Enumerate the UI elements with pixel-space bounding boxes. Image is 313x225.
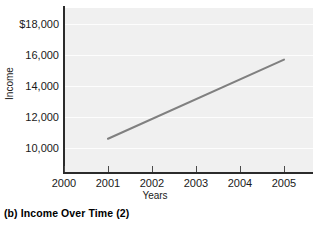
x-axis-title: Years bbox=[115, 190, 195, 201]
x-axis-tick bbox=[284, 166, 285, 172]
y-axis-line bbox=[63, 6, 65, 174]
x-axis-tick bbox=[152, 166, 153, 172]
y-axis-tick-label: 10,000 bbox=[0, 143, 59, 154]
gridline bbox=[65, 55, 313, 56]
y-axis-tick-label: $18,000 bbox=[0, 19, 59, 30]
x-axis-tick-label: 2001 bbox=[86, 177, 130, 189]
y-axis-title: Income bbox=[4, 54, 15, 114]
figure-income-over-time: $18,000 16,000 14,000 12,000 10,000 2000… bbox=[0, 0, 313, 225]
x-axis-line bbox=[63, 172, 313, 174]
x-axis-tick bbox=[240, 166, 241, 172]
gridline bbox=[65, 117, 313, 118]
x-axis-tick-label: 2000 bbox=[42, 177, 86, 189]
x-axis-tick bbox=[64, 166, 65, 172]
x-axis-tick bbox=[196, 166, 197, 172]
x-axis-tick-label: 2003 bbox=[174, 177, 218, 189]
figure-caption: (b) Income Over Time (2) bbox=[4, 207, 129, 220]
x-axis-tick-label: 2004 bbox=[218, 177, 262, 189]
gridline bbox=[65, 148, 313, 149]
y-axis-tick-label: 12,000 bbox=[0, 112, 59, 123]
x-axis-tick-label: 2005 bbox=[262, 177, 306, 189]
gridline bbox=[65, 86, 313, 87]
plot-area bbox=[65, 8, 313, 172]
x-axis-tick-label: 2002 bbox=[130, 177, 174, 189]
x-axis-tick bbox=[108, 166, 109, 172]
gridline bbox=[65, 24, 313, 25]
